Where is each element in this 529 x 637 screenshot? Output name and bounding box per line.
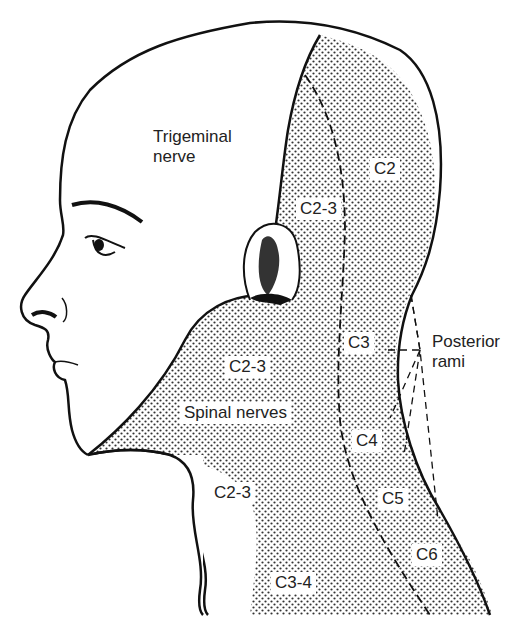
nose-wing [62, 298, 67, 322]
label-c2-3-lower: C2-3 [210, 482, 255, 504]
label-posterior-rami: Posterior rami [432, 332, 500, 372]
label-trigeminal-nerve: Trigeminal nerve [153, 127, 232, 167]
label-posterior-line1: Posterior [432, 332, 500, 352]
label-c3-4: C3-4 [271, 572, 316, 594]
pupil [94, 239, 104, 251]
label-c4: C4 [352, 430, 382, 452]
label-c2-3-upper: C2-3 [296, 198, 341, 220]
label-c6: C6 [412, 544, 442, 566]
label-c2-3-mid: C2-3 [225, 356, 270, 378]
label-trigeminal-line1: Trigeminal [153, 127, 232, 147]
head-neck-dermatome-diagram [0, 0, 529, 637]
face-profile [21, 200, 88, 455]
lips [55, 361, 78, 365]
eye [85, 236, 125, 255]
label-trigeminal-line2: nerve [153, 147, 232, 167]
label-c3: C3 [344, 332, 374, 354]
label-spinal-nerves: Spinal nerves [180, 402, 291, 424]
label-c2: C2 [370, 158, 400, 180]
nostril [32, 312, 56, 317]
label-c5: C5 [378, 488, 408, 510]
neck-front-mask [88, 455, 203, 615]
eyebrow [72, 202, 142, 222]
label-posterior-line2: rami [432, 352, 500, 372]
